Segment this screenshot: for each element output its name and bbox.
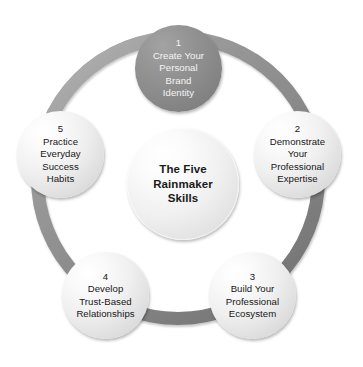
node-4[interactable]: 4DevelopTrust-BasedRelationships: [62, 252, 149, 339]
node-5-label: 5PracticeEverydaySuccessHabits: [37, 123, 83, 185]
hub-label: The FiveRainmakerSkills: [153, 162, 213, 206]
node-2[interactable]: 2DemonstrateYourProfessionalExpertise: [254, 111, 341, 198]
node-3-label: 3Build YourProfessionalEcosystem: [223, 271, 282, 321]
five-rainmaker-skills-diagram: The FiveRainmakerSkills 1Create YourPers…: [0, 0, 363, 367]
node-1-label: 1Create YourPersonalBrandIdentity: [150, 37, 207, 99]
node-5[interactable]: 5PracticeEverydaySuccessHabits: [17, 111, 104, 198]
diagram-hub: The FiveRainmakerSkills: [127, 128, 239, 240]
node-3[interactable]: 3Build YourProfessionalEcosystem: [209, 252, 296, 339]
node-1[interactable]: 1Create YourPersonalBrandIdentity: [135, 25, 222, 112]
node-2-label: 2DemonstrateYourProfessionalExpertise: [267, 123, 328, 185]
node-4-label: 4DevelopTrust-BasedRelationships: [73, 271, 137, 321]
